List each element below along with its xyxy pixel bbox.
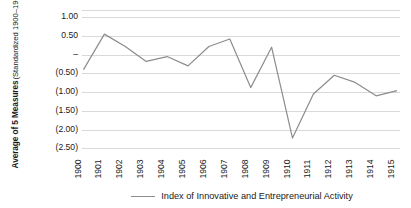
y-axis-tick-label: (1.00) bbox=[4, 87, 78, 96]
legend-line-swatch bbox=[131, 196, 155, 197]
y-axis-tick-label: (1.50) bbox=[4, 106, 78, 115]
x-axis-tick-text: 1914 bbox=[365, 152, 375, 186]
y-axis-tick-labels: 1.000.50–(0.50)(1.00)(1.50)(2.00)(2.50) bbox=[0, 0, 78, 160]
y-axis-tick-label: 1.00 bbox=[4, 12, 78, 21]
x-axis-tick-text: 1903 bbox=[135, 152, 145, 186]
y-axis-tick-label: – bbox=[4, 50, 78, 59]
x-axis-tick-labels: 1900190119021903190419051906190719081909… bbox=[82, 150, 400, 184]
x-axis-tick-text: 1911 bbox=[302, 152, 312, 186]
x-axis-tick-text: 1907 bbox=[219, 152, 229, 186]
x-axis-tick-text: 1909 bbox=[261, 152, 271, 186]
data-series-line bbox=[84, 34, 398, 138]
chart-container: Average of 5 Measures (Standardized 1900… bbox=[0, 0, 411, 208]
x-axis-tick-text: 1902 bbox=[114, 152, 124, 186]
plot-area bbox=[82, 10, 400, 150]
chart-legend: Index of Innovative and Entrepreneurial … bbox=[82, 188, 402, 204]
y-axis-tick-label: 0.50 bbox=[4, 31, 78, 40]
series-line-svg bbox=[82, 10, 400, 150]
x-axis-tick-text: 1900 bbox=[73, 152, 83, 186]
x-axis-tick-text: 1910 bbox=[282, 152, 292, 186]
y-axis-tick-label: (2.00) bbox=[4, 125, 78, 134]
x-axis-tick-text: 1908 bbox=[240, 152, 250, 186]
x-axis-tick-text: 1904 bbox=[156, 152, 166, 186]
x-axis-tick-text: 1913 bbox=[344, 152, 354, 186]
x-axis-tick-text: 1912 bbox=[323, 152, 333, 186]
y-axis-tick-label: (0.50) bbox=[4, 68, 78, 77]
x-axis-tick-text: 1915 bbox=[386, 152, 396, 186]
x-axis-tick-text: 1905 bbox=[177, 152, 187, 186]
legend-label: Index of Innovative and Entrepreneurial … bbox=[161, 191, 353, 201]
x-axis-tick-label: 1915 bbox=[380, 150, 411, 184]
x-axis-tick-text: 1906 bbox=[198, 152, 208, 186]
x-axis-tick-text: 1901 bbox=[93, 152, 103, 186]
